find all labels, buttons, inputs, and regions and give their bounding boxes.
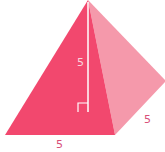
base-side-label: 5	[144, 113, 151, 126]
pyramid-diagram: 5 5 5	[0, 0, 165, 152]
base-front-label: 5	[56, 138, 63, 151]
height-label: 5	[77, 56, 84, 69]
